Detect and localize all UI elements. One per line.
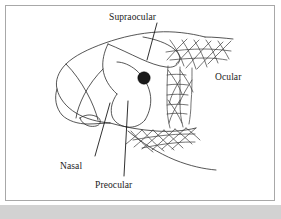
head-interior-contour-1 (76, 69, 103, 118)
preocular-right-edge (117, 62, 151, 120)
label-preocular: Preocular (95, 180, 132, 190)
head-interior-contour-2 (66, 64, 98, 120)
head-top-edge (205, 37, 233, 39)
label-nasal: Nasal (60, 161, 82, 171)
head-upper-outline (56, 32, 205, 123)
label-supraocular: Supraocular (109, 12, 156, 22)
preocular-plate (111, 94, 145, 127)
supraocular-lower-edge (103, 44, 117, 94)
supraocular-plate (108, 37, 180, 67)
leader-line-nasal (95, 103, 110, 156)
figure-page: Supraocular Ocular Nasal Preocular (0, 0, 281, 219)
scale-column-postocular (167, 66, 193, 128)
leader-line-supraocular (147, 23, 157, 60)
scale-mesh-upper-right (166, 39, 231, 69)
leader-line-preocular (124, 101, 128, 176)
neck-lower-curve (128, 131, 216, 170)
snake-head-drawing (0, 0, 281, 219)
label-ocular: Ocular (215, 72, 241, 82)
snout-tip-outline (56, 89, 110, 124)
eye-spot-icon (138, 72, 150, 84)
